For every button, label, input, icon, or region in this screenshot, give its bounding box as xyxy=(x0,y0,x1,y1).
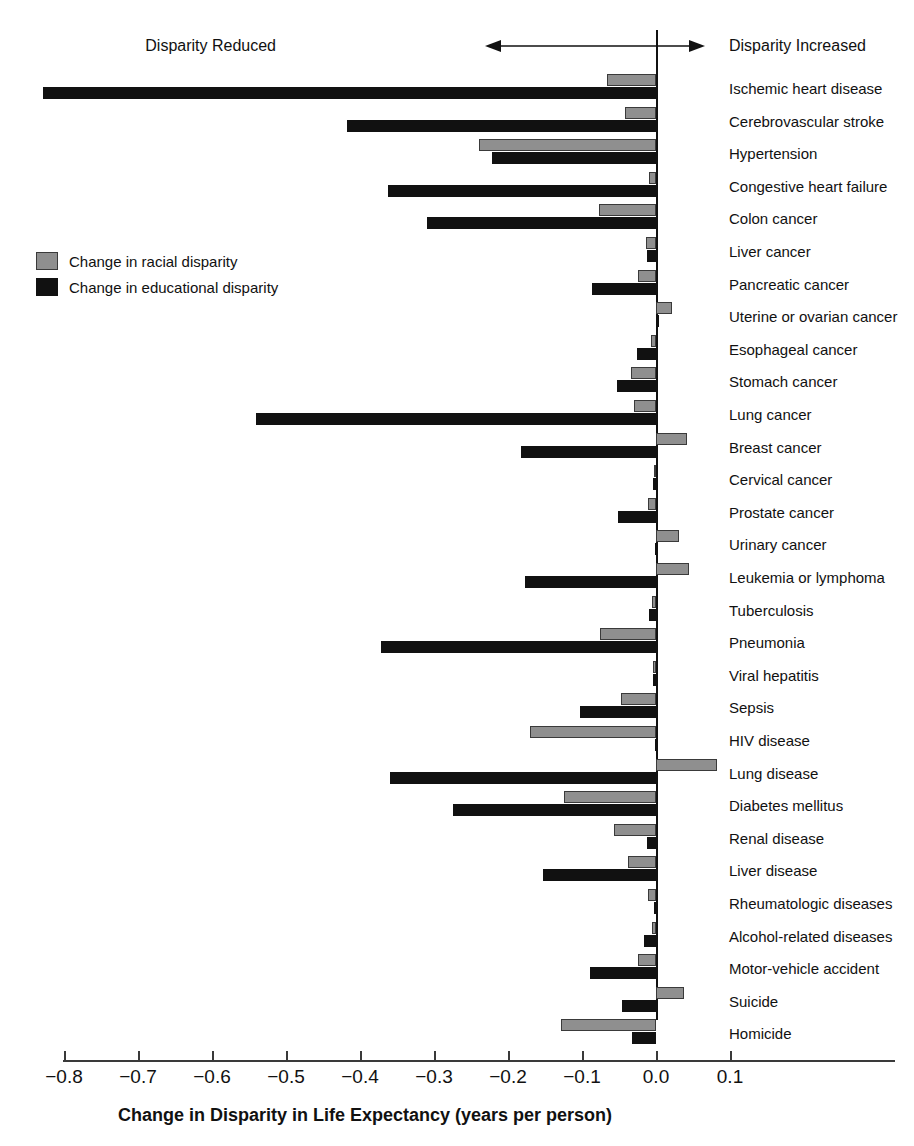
x-tick xyxy=(434,1051,436,1060)
bar-racial xyxy=(653,661,656,673)
bar-edu xyxy=(427,217,656,229)
bar-edu xyxy=(622,1000,656,1012)
disparity-increased-label: Disparity Increased xyxy=(729,32,866,60)
x-tick xyxy=(138,1051,140,1060)
disparity-increased-annotation: Disparity Increased xyxy=(729,32,866,60)
bar-racial xyxy=(648,498,656,510)
bar-row: Hypertension xyxy=(0,137,914,170)
bar-racial xyxy=(656,433,687,445)
bar-edu xyxy=(580,706,656,718)
x-axis-line xyxy=(63,1060,895,1062)
bar-racial xyxy=(621,693,656,705)
bar-edu xyxy=(637,348,656,360)
bar-racial xyxy=(652,922,656,934)
bar-racial xyxy=(614,824,656,836)
category-label: Pneumonia xyxy=(729,634,805,651)
legend-label-racial: Change in racial disparity xyxy=(69,253,237,270)
bar-row: Lung cancer xyxy=(0,398,914,431)
bar-row: Lung disease xyxy=(0,757,914,790)
bar-edu xyxy=(381,641,656,653)
x-tick xyxy=(582,1051,584,1060)
bar-row: Alcohol-related diseases xyxy=(0,920,914,953)
category-label: Rheumatologic diseases xyxy=(729,895,892,912)
bar-row: Renal disease xyxy=(0,822,914,855)
bar-racial xyxy=(628,856,656,868)
bar-edu xyxy=(521,446,656,458)
bar-edu xyxy=(617,380,656,392)
bar-row: Cerebrovascular stroke xyxy=(0,105,914,138)
category-label: Cervical cancer xyxy=(729,471,832,488)
category-label: Congestive heart failure xyxy=(729,178,887,195)
category-label: Suicide xyxy=(729,993,778,1010)
bar-edu xyxy=(592,283,656,295)
bar-racial xyxy=(646,237,656,249)
category-label: Stomach cancer xyxy=(729,373,837,390)
bar-racial xyxy=(530,726,656,738)
category-label: Lung disease xyxy=(729,765,818,782)
bar-edu xyxy=(388,185,656,197)
bar-racial xyxy=(651,335,656,347)
category-label: Uterine or ovarian cancer xyxy=(729,308,897,325)
bar-edu xyxy=(590,967,656,979)
bar-row: Diabetes mellitus xyxy=(0,789,914,822)
bar-edu xyxy=(543,869,656,881)
x-tick-label: 0.0 xyxy=(643,1066,669,1088)
bar-racial xyxy=(656,563,689,575)
bar-edu xyxy=(256,413,656,425)
legend-item-racial: Change in racial disparity xyxy=(36,248,278,274)
bar-edu xyxy=(492,152,656,164)
category-label: Pancreatic cancer xyxy=(729,276,849,293)
category-label: Diabetes mellitus xyxy=(729,797,843,814)
category-label: Cerebrovascular stroke xyxy=(729,113,884,130)
legend-item-educational: Change in educational disparity xyxy=(36,274,278,300)
category-label: Sepsis xyxy=(729,699,774,716)
x-tick xyxy=(360,1051,362,1060)
plot-area: Ischemic heart diseaseCerebrovascular st… xyxy=(0,70,914,1020)
category-label: Urinary cancer xyxy=(729,536,827,553)
bar-row: Cervical cancer xyxy=(0,463,914,496)
x-tick-label: −0.3 xyxy=(415,1066,453,1088)
bar-racial xyxy=(634,400,656,412)
bar-row: Ischemic heart disease xyxy=(0,72,914,105)
x-tick-label: −0.8 xyxy=(45,1066,83,1088)
bar-edu xyxy=(656,315,659,327)
x-tick-label: −0.7 xyxy=(119,1066,157,1088)
bar-row: Homicide xyxy=(0,1017,914,1050)
category-label: Prostate cancer xyxy=(729,504,834,521)
bar-edu xyxy=(632,1032,656,1044)
x-tick xyxy=(64,1051,66,1060)
disparity-reduced-annotation: Disparity Reduced xyxy=(145,32,276,60)
category-label: Ischemic heart disease xyxy=(729,80,882,97)
bar-racial xyxy=(600,628,656,640)
x-tick xyxy=(508,1051,510,1060)
bar-racial xyxy=(607,74,656,86)
bar-edu xyxy=(649,609,656,621)
category-label: Liver cancer xyxy=(729,243,811,260)
category-label: Homicide xyxy=(729,1025,792,1042)
category-label: HIV disease xyxy=(729,732,810,749)
bar-racial xyxy=(564,791,656,803)
legend-swatch-racial xyxy=(36,252,58,270)
category-label: Hypertension xyxy=(729,145,817,162)
bar-row: Congestive heart failure xyxy=(0,170,914,203)
category-label: Renal disease xyxy=(729,830,824,847)
x-tick xyxy=(656,1051,658,1060)
category-label: Alcohol-related diseases xyxy=(729,928,892,945)
category-label: Esophageal cancer xyxy=(729,341,857,358)
bar-edu xyxy=(647,250,656,262)
x-tick-label: −0.5 xyxy=(267,1066,305,1088)
bar-edu xyxy=(655,543,658,555)
bar-row: Viral hepatitis xyxy=(0,659,914,692)
bar-racial xyxy=(648,889,656,901)
bar-racial xyxy=(638,954,657,966)
bar-edu xyxy=(390,772,656,784)
bar-edu xyxy=(525,576,656,588)
x-tick xyxy=(730,1051,732,1060)
chart-container: Disparity Reduced Disparity Increased Is… xyxy=(0,0,914,1146)
category-label: Tuberculosis xyxy=(729,602,813,619)
bar-row: Stomach cancer xyxy=(0,365,914,398)
bar-row: Breast cancer xyxy=(0,431,914,464)
bar-row: Suicide xyxy=(0,985,914,1018)
bar-row: HIV disease xyxy=(0,724,914,757)
bar-edu xyxy=(618,511,656,523)
